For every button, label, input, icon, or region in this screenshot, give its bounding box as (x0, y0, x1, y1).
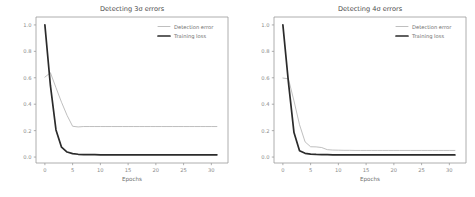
legend-left[interactable]: Detection errorTraining loss (154, 20, 226, 43)
x-tick-label: 30 (446, 167, 453, 173)
y-tick-label: 0.0 (261, 154, 269, 160)
legend-right[interactable]: Detection errorTraining loss (392, 20, 464, 43)
x-tick-label: 5 (71, 167, 74, 173)
x-tick-label: 0 (281, 167, 284, 173)
x-tick-label: 25 (180, 167, 187, 173)
y-tick-label: 0.6 (261, 75, 269, 81)
y-tick-label: 0.0 (23, 154, 31, 160)
y-tick-label: 0.2 (261, 128, 269, 134)
series-line-training-loss (45, 25, 217, 155)
legend-label: Training loss (173, 33, 206, 40)
series-line-detection-error (282, 78, 454, 150)
page-title: Detecting 4σ errors (337, 5, 402, 13)
y-tick-label: 1.0 (261, 22, 269, 28)
x-tick-label: 10 (335, 167, 342, 173)
legend-label: Training loss (411, 33, 444, 40)
chart-svg-right: Detecting 4σ errors 0510152025300.00.20.… (238, 0, 475, 197)
chart-panel-left: Detecting 3σ errors 0510152025300.00.20.… (0, 0, 238, 197)
x-axis-title: Epochs (122, 176, 142, 183)
chart-svg-left: Detecting 3σ errors 0510152025300.00.20.… (0, 0, 238, 197)
figure-canvas: Detecting 3σ errors 0510152025300.00.20.… (0, 0, 475, 197)
x-tick-label: 20 (390, 167, 397, 173)
y-tick-label: 0.8 (261, 48, 269, 54)
series-group-left (45, 25, 217, 155)
y-tick-label: 0.4 (23, 101, 32, 107)
x-tick-label: 15 (362, 167, 369, 173)
series-group-right (282, 25, 454, 155)
series-line-training-loss (282, 25, 454, 155)
y-tick-label: 0.8 (23, 48, 31, 54)
chart-panel-right: Detecting 4σ errors 0510152025300.00.20.… (238, 0, 475, 197)
y-tick-label: 1.0 (23, 22, 31, 28)
x-tick-label: 20 (153, 167, 160, 173)
x-tick-label: 10 (97, 167, 104, 173)
legend-label: Detection error (174, 24, 214, 30)
x-tick-label: 25 (418, 167, 425, 173)
x-axis-title: Epochs (359, 176, 379, 183)
x-tick-label: 5 (308, 167, 311, 173)
x-tick-label: 15 (125, 167, 132, 173)
legend-label: Detection error (412, 24, 452, 30)
y-tick-label: 0.4 (261, 101, 270, 107)
y-tick-label: 0.2 (23, 128, 31, 134)
series-line-detection-error (45, 73, 217, 127)
x-tick-label: 0 (43, 167, 46, 173)
x-tick-label: 30 (208, 167, 215, 173)
page-title: Detecting 3σ errors (100, 5, 165, 13)
y-tick-label: 0.6 (23, 75, 31, 81)
